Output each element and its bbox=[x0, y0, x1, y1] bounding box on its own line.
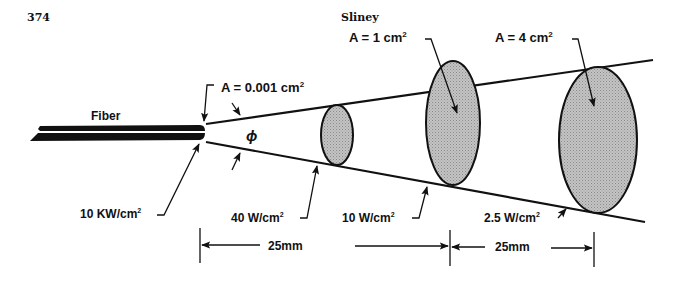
spot-small bbox=[321, 105, 353, 165]
area-label-fiber-tip: A = 0.001 cm2 bbox=[204, 80, 305, 121]
spot-4cm2 bbox=[559, 67, 637, 213]
irradiance-label-10kw: 10 KW/cm2 bbox=[80, 144, 199, 221]
divergence-angle-symbol: ϕ bbox=[246, 127, 257, 144]
dimension-lines bbox=[200, 228, 594, 267]
svg-text:A = 1 cm2: A = 1 cm2 bbox=[349, 30, 407, 45]
spot-1cm2 bbox=[426, 61, 480, 185]
irradiance-label-40w: 40 W/cm2 bbox=[231, 166, 317, 225]
beam-divergence-diagram: Fiber ϕ A = 0.001 cm2 A = 1 cm2 A = 4 cm… bbox=[0, 0, 679, 281]
distance-label-1: 25mm bbox=[268, 239, 303, 253]
svg-text:10 KW/cm2: 10 KW/cm2 bbox=[80, 207, 141, 221]
svg-text:A = 4 cm2: A = 4 cm2 bbox=[495, 30, 553, 45]
fiber-label: Fiber bbox=[91, 109, 121, 123]
angle-indicators bbox=[232, 103, 240, 170]
svg-text:40 W/cm2: 40 W/cm2 bbox=[231, 211, 284, 225]
svg-text:2.5 W/cm2: 2.5 W/cm2 bbox=[484, 211, 540, 225]
irradiance-label-2-5w: 2.5 W/cm2 bbox=[484, 209, 566, 225]
beam-spots bbox=[321, 61, 637, 213]
distance-label-2: 25mm bbox=[495, 240, 530, 254]
svg-text:A = 0.001 cm2: A = 0.001 cm2 bbox=[221, 80, 305, 95]
fiber: Fiber bbox=[30, 109, 205, 141]
irradiance-label-10w: 10 W/cm2 bbox=[342, 187, 427, 225]
svg-text:10 W/cm2: 10 W/cm2 bbox=[342, 211, 395, 225]
